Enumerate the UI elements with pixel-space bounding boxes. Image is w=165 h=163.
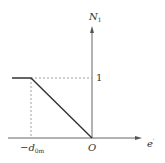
level-one-label: 1 <box>96 73 102 83</box>
shape-function-diagram <box>0 0 165 163</box>
x-axis-label-superscript: ′ <box>153 137 154 144</box>
x-axis-label: e′ <box>147 138 154 149</box>
origin-label: O <box>88 143 96 153</box>
level-one-text: 1 <box>96 72 102 83</box>
breakpoint-subscript: 0m <box>35 147 45 154</box>
origin-text: O <box>88 142 96 153</box>
x-axis-arrow-icon <box>135 136 142 140</box>
y-axis-label: N1 <box>89 12 102 23</box>
breakpoint-text: −d <box>20 142 35 153</box>
y-axis-label-text: N <box>89 11 98 22</box>
y-axis-label-subscript: 1 <box>98 16 102 23</box>
y-axis-arrow-icon <box>90 26 94 33</box>
breakpoint-label: −d0m <box>20 143 44 154</box>
function-curve <box>12 78 92 138</box>
